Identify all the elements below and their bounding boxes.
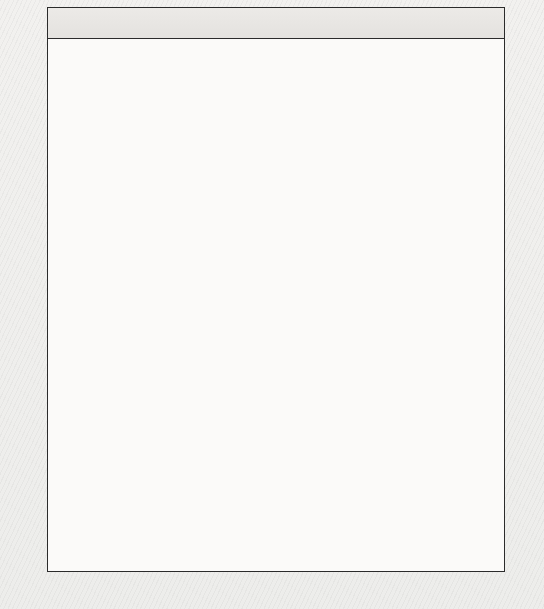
chart-figure [0,0,544,609]
chart-title-banner [47,7,505,38]
chart-canvas [48,39,503,570]
plot-area [47,38,505,572]
